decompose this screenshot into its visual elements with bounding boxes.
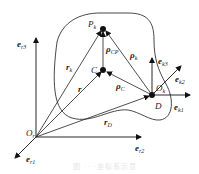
figure-caption: 图 ·· ·坐标系示意 bbox=[45, 161, 165, 171]
label-er1: er1 bbox=[26, 154, 35, 165]
point-c bbox=[100, 67, 106, 73]
vector-r bbox=[36, 72, 101, 137]
vector-rk bbox=[36, 31, 101, 137]
label-ek2: ek2 bbox=[175, 74, 185, 85]
label-ek1: ek1 bbox=[174, 102, 184, 113]
label-pk: Pk bbox=[87, 19, 97, 30]
diagram-canvas: er3 er2 er1 Or Pk C D Ok rk r rD ρCP ρk … bbox=[0, 0, 199, 174]
label-ek3: ek3 bbox=[158, 56, 168, 67]
vector-rD bbox=[36, 96, 149, 137]
label-er3: er3 bbox=[17, 39, 26, 50]
label-rD: rD bbox=[104, 117, 113, 128]
label-or: Or bbox=[26, 128, 36, 139]
label-d: D bbox=[154, 101, 162, 111]
vector-rho-k bbox=[106, 31, 152, 95]
label-er2: er2 bbox=[135, 143, 144, 154]
label-c: C bbox=[91, 65, 98, 75]
label-rho-c: ρC bbox=[115, 81, 126, 92]
point-pk bbox=[100, 26, 106, 32]
label-rho-k: ρk bbox=[129, 50, 138, 61]
label-ok: Ok bbox=[156, 83, 166, 94]
vector-rho-c bbox=[107, 72, 152, 95]
point-d bbox=[149, 92, 155, 98]
label-rk: rk bbox=[66, 62, 73, 73]
label-r: r bbox=[78, 84, 82, 94]
